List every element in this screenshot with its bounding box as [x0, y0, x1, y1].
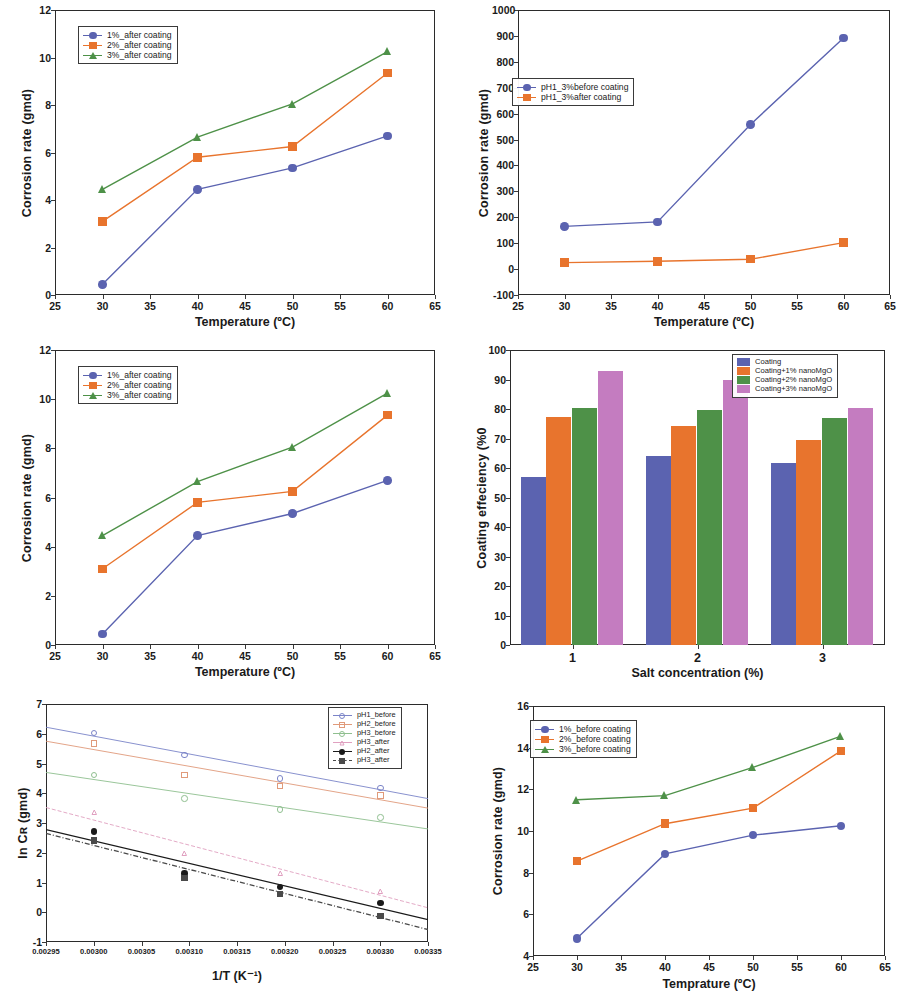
data-point-panel3-s3-3 [383, 389, 391, 397]
legend-swatch-2 [737, 367, 750, 375]
legend-item-panel1-3[interactable]: 3%_after coating [83, 50, 172, 60]
bar-2-series3 [697, 410, 722, 645]
data-point-panel1-s3-3 [383, 47, 391, 55]
legend-item-panel2-2[interactable]: pH1_3%after coating [517, 92, 628, 102]
legend-item-panel3-2[interactable]: 2%_after coating [83, 380, 172, 390]
legend-item-panel5-6[interactable]: pH3_after [333, 756, 396, 765]
data-point-panel5-s6-1 [181, 875, 188, 882]
x-tick-mark [333, 942, 334, 946]
data-point-panel3-s1-2 [288, 509, 297, 518]
data-point-panel1-s2-0 [98, 217, 107, 226]
y-tick-label-panel4-0: 0 [484, 639, 506, 651]
data-point-panel5-s3-3 [377, 814, 384, 821]
y-tick-label-panel6-5: 14 [507, 742, 529, 754]
legend-panel2: pH1_3%before coatingpH1_3%after coating [512, 78, 634, 106]
y-tick-label-panel3-1: 2 [29, 590, 51, 602]
x-tick-label-panel5-1: 0.00300 [80, 947, 107, 956]
x-tick-mark [150, 645, 151, 649]
y-tick-mark [506, 645, 510, 646]
data-point-panel5-s3-0 [91, 772, 98, 779]
x-tick-label-panel2-3: 40 [652, 300, 664, 312]
legend-item-panel4-4[interactable]: Coating+3% nanoMgO [737, 385, 832, 394]
y-axis-label-panel5: ln Cʀ (gmd) [16, 787, 30, 858]
bar-1-series3 [572, 408, 597, 645]
x-tick-mark [428, 942, 429, 946]
legend-item-panel2-1[interactable]: pH1_3%before coating [517, 82, 628, 92]
y-tick-mark [506, 439, 510, 440]
legend-panel5: pH1_beforepH2_beforepH3_beforepH3_afterp… [328, 707, 402, 769]
y-tick-mark [506, 527, 510, 528]
legend-label-panel3-2: 2%_after coating [107, 380, 172, 390]
y-tick-label-panel5-1: 0 [20, 906, 42, 918]
x-tick-mark [709, 956, 710, 960]
data-point-panel2-s1-2 [746, 120, 755, 129]
legend-line-1 [83, 371, 102, 380]
bar-2-series1 [646, 456, 671, 645]
data-point-panel1-s3-2 [288, 100, 296, 108]
x-tick-mark [885, 956, 886, 960]
data-point-panel6-s2-2 [749, 804, 758, 813]
x-tick-label-panel3-8: 65 [429, 650, 441, 662]
x-tick-label-panel1-2: 35 [144, 300, 156, 312]
x-tick-label-panel5-4: 0.00315 [223, 947, 250, 956]
legend-item-panel3-1[interactable]: 1%_after coating [83, 370, 172, 380]
x-tick-label-panel3-4: 45 [239, 650, 251, 662]
legend-item-panel1-1[interactable]: 1%_after coating [83, 30, 172, 40]
x-tick-label-panel3-0: 25 [49, 650, 61, 662]
data-point-panel5-s4-0 [91, 809, 98, 816]
y-axis-label-panel6: Corrosion rate (gmd) [491, 767, 505, 895]
y-tick-label-panel5-6: 5 [20, 758, 42, 770]
top-tick-row [510, 350, 885, 353]
x-tick-mark [797, 956, 798, 960]
bar-2-series2 [671, 426, 696, 645]
x-tick-label-panel6-4: 45 [703, 961, 715, 973]
x-tick-mark [388, 295, 389, 299]
data-point-panel1-s1-2 [288, 164, 297, 173]
data-point-panel5-s1-3 [377, 785, 384, 792]
data-point-panel3-s2-3 [383, 411, 392, 420]
y-tick-label-panel3-5: 10 [29, 393, 51, 405]
x-tick-label-panel2-0: 25 [512, 300, 524, 312]
x-tick-mark [103, 295, 104, 299]
data-point-panel1-s2-3 [383, 69, 392, 78]
bar-2-series4 [723, 380, 748, 645]
bar-3-series2 [796, 440, 821, 645]
legend-line-3 [535, 745, 554, 754]
y-tick-label-panel4-2: 20 [484, 580, 506, 592]
data-point-panel5-s2-2 [277, 783, 284, 790]
legend-label-panel2-1: pH1_3%before coating [541, 82, 628, 92]
data-point-panel5-s2-0 [91, 740, 98, 747]
data-point-panel1-s3-0 [98, 185, 106, 193]
x-tick-mark [611, 295, 612, 299]
data-point-panel1-s3-1 [193, 133, 201, 141]
data-point-panel5-s1-2 [277, 775, 284, 782]
legend-item-panel3-3[interactable]: 3%_after coating [83, 390, 172, 400]
x-tick-label-panel4-1: 2 [694, 651, 701, 665]
x-tick-label-panel6-8: 65 [879, 961, 891, 973]
x-tick-label-panel3-6: 55 [334, 650, 346, 662]
legend-item-panel6-3[interactable]: 3%_before coating [535, 744, 631, 754]
legend-item-panel6-2[interactable]: 2%_before coating [535, 734, 631, 744]
y-tick-mark [506, 409, 510, 410]
x-tick-mark [704, 295, 705, 299]
y-axis-label-panel4: Coating effeciency (%0 [475, 427, 489, 568]
data-point-panel3-s2-1 [193, 498, 202, 507]
x-tick-mark [890, 295, 891, 299]
legend-panel4: CoatingCoating+1% nanoMgOCoating+2% nano… [732, 354, 838, 398]
data-point-panel3-s1-3 [383, 476, 392, 485]
data-point-panel5-s4-3 [377, 888, 384, 895]
legend-label-panel4-4: Coating+3% nanoMgO [755, 385, 832, 394]
legend-item-panel1-2[interactable]: 2%_after coating [83, 40, 172, 50]
y-tick-label-panel6-2: 8 [507, 867, 529, 879]
y-tick-label-panel2-5: 400 [492, 159, 514, 171]
legend-line-2 [83, 381, 102, 390]
y-tick-label-panel3-6: 12 [29, 344, 51, 356]
x-tick-mark [380, 942, 381, 946]
data-point-panel6-s1-0 [573, 934, 582, 943]
y-tick-label-panel4-9: 90 [484, 374, 506, 386]
legend-label-panel1-2: 2%_after coating [107, 40, 172, 50]
x-axis-label-panel3: Temperature (ºC) [55, 665, 435, 679]
data-point-panel2-s1-0 [560, 222, 569, 231]
x-tick-label-panel3-7: 60 [382, 650, 394, 662]
legend-item-panel6-1[interactable]: 1%_before coating [535, 724, 631, 734]
